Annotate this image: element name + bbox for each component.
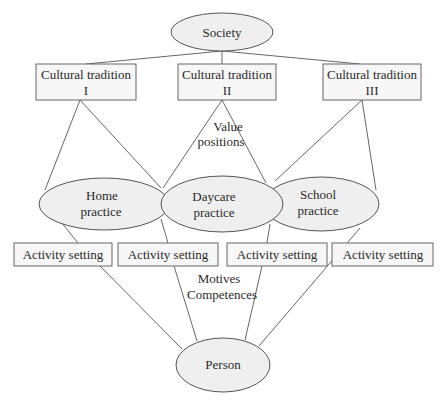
cultural-practice-diagram: Society Cultural tradition I Cultural tr… (0, 0, 444, 404)
activity-setting-3-node: Activity setting (227, 243, 327, 266)
value-positions-annotation: Value positions (198, 119, 245, 149)
motives-label: Motives (198, 271, 241, 286)
person-label: Person (205, 357, 241, 372)
cultural-tradition-3-node: Cultural tradition III (323, 64, 421, 100)
cultural-tradition-1-node: Cultural tradition I (36, 64, 136, 100)
school-practice-line1: School (300, 187, 337, 202)
competences-label: Competences (187, 287, 257, 302)
activity-setting-3-label: Activity setting (237, 247, 318, 262)
home-practice-node: Home practice (39, 178, 169, 230)
daycare-practice-line1: Daycare (192, 189, 236, 204)
daycare-practice-line2: practice (193, 205, 234, 220)
activity-setting-4-node: Activity setting (332, 243, 433, 266)
tradition-1-numeral: I (84, 83, 88, 98)
motives-competences-annotation: Motives Competences (187, 271, 257, 302)
tradition-3-title: Cultural tradition (327, 67, 417, 82)
activity-setting-1-node: Activity setting (14, 243, 112, 266)
tradition-2-numeral: II (223, 83, 232, 98)
society-label: Society (203, 25, 242, 40)
activity-setting-2-label: Activity setting (128, 247, 209, 262)
home-practice-line2: practice (80, 204, 121, 219)
society-node: Society (171, 13, 273, 51)
tradition-3-numeral: III (366, 83, 379, 98)
value-positions-line2: positions (198, 134, 245, 149)
home-practice-line1: Home (86, 188, 118, 203)
school-practice-line2: practice (297, 203, 338, 218)
tradition-1-title: Cultural tradition (41, 67, 131, 82)
value-positions-line1: Value (213, 119, 243, 134)
person-node: Person (176, 338, 270, 392)
edges-society-to-traditions (86, 51, 360, 64)
activity-setting-2-node: Activity setting (118, 243, 218, 266)
daycare-practice-node: Daycare practice (161, 176, 283, 232)
activity-setting-1-label: Activity setting (23, 247, 104, 262)
tradition-2-title: Cultural tradition (182, 67, 272, 82)
activity-setting-4-label: Activity setting (343, 247, 424, 262)
cultural-tradition-2-node: Cultural tradition II (178, 64, 276, 100)
